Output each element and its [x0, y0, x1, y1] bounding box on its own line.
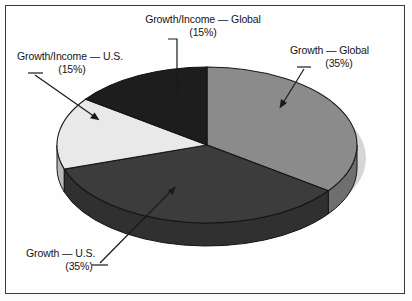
slice-label-growth-us: Growth — U.S. (35%) [26, 247, 156, 273]
slice-label-growth-income-global: Growth/Income — Global (15%) [128, 13, 278, 39]
slice-label-growth-income-global-line1: Growth/Income — Global [145, 13, 261, 25]
slice-label-growth-global-line1: Growth — Global [290, 44, 369, 56]
slice-label-growth-income-us: Growth/Income — U.S. (15%) [17, 50, 157, 76]
slice-label-growth-global: Growth — Global (35%) [290, 44, 410, 70]
slice-label-growth-income-us-line2: (15%) [17, 63, 157, 76]
slice-label-growth-global-line2: (35%) [290, 57, 410, 70]
slice-label-growth-us-line2: (35%) [26, 260, 156, 273]
leader-line-growth-income-us [35, 75, 95, 117]
slice-label-growth-us-line1: Growth — U.S. [26, 247, 95, 259]
slice-label-growth-income-us-line1: Growth/Income — U.S. [17, 50, 123, 62]
slice-label-growth-income-global-line2: (15%) [128, 26, 278, 39]
pie-chart-figure: Growth/Income — Global (15%) Growth/Inco… [0, 0, 412, 301]
